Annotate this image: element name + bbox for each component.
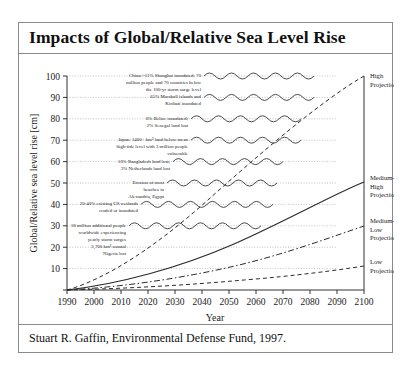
annotation-line: high-tide level with 3 million people: [116, 144, 188, 149]
projection-label-high: Projections: [370, 81, 394, 88]
y-tick-label: 20: [51, 243, 61, 253]
y-tick-label: 70: [51, 136, 61, 146]
annotation-line: 2,700 km² coastal: [91, 244, 126, 250]
y-tick-label: 80: [51, 114, 61, 124]
x-tick-label: 2030: [166, 297, 185, 307]
projection-label-medium-low: Medium-: [370, 217, 394, 224]
x-tick-label: 2070: [274, 297, 293, 307]
projection-label-low: Low: [370, 258, 382, 265]
annotation-line: 18 million additional people: [71, 223, 126, 228]
x-tick-label: 2040: [193, 297, 212, 307]
x-tick-label: 2100: [355, 297, 374, 307]
y-axis-title: Global/Relative sea level rise [cm]: [28, 114, 39, 253]
projection-label-medium-high: High: [370, 183, 384, 190]
y-tick-labels: 100 90 80 70 60 50 40 30 20 10: [46, 72, 61, 275]
x-tick-label: 2050: [220, 297, 239, 307]
y-tick-label: 90: [51, 93, 61, 103]
annotation-line: yearly storm surges: [88, 237, 126, 242]
annotation-line: 65% Marshall islands and: [150, 94, 201, 99]
annotation-line: Kiribati inundated: [165, 101, 201, 106]
x-tick-labels: 1990 2000 2010 2020 2030 2040 2050 2060 …: [58, 297, 374, 307]
annotation-line: 6% Belize inundated;: [146, 116, 188, 121]
annotation-line: China:>11% Shanghai inundated; 70: [129, 73, 202, 78]
y-tick-label: 60: [51, 157, 61, 167]
y-tick-label: 50: [51, 179, 61, 189]
annotation-line: 2% Senegal land lost: [147, 123, 189, 128]
chart-plot-area: 100 90 80 70 60 50 40 30 20 10 1990 2000…: [19, 54, 394, 327]
projection-labels: High Projections Medium- High Projection…: [370, 72, 394, 274]
annotation-line: Alexandria, Egypt: [128, 194, 164, 200]
annotation-line: worldwide experiencing: [79, 230, 127, 235]
annotation-line: million people and 70 countries below: [126, 80, 202, 85]
y-tick-label: 10: [51, 264, 61, 274]
x-tick-label: 1990: [58, 297, 77, 307]
annotation-line: the 100-yr storm surge level: [146, 87, 202, 92]
x-axis-title: Year: [206, 312, 225, 323]
impact-annotations: China:>11% Shanghai inundated; 70 millio…: [71, 73, 202, 256]
annotation-line: beaches in: [143, 187, 164, 192]
annotation-line: 10% Bangladesh land lost;: [118, 159, 170, 164]
y-tick-label: 100: [46, 72, 61, 82]
annotation-line: Nigeria lost: [103, 251, 127, 256]
x-tick-label: 2090: [328, 297, 347, 307]
sea-level-chart: 100 90 80 70 60 50 40 30 20 10 1990 2000…: [19, 54, 394, 327]
curve-medium-low-projections: [67, 226, 364, 290]
y-axis: [63, 76, 67, 290]
x-tick-label: 2000: [85, 297, 104, 307]
projection-label-medium-low: Projections: [370, 234, 394, 241]
annotation-line: 20-40% existing US wetlands: [80, 201, 138, 206]
x-axis: [67, 290, 364, 294]
curve-low-projections: [67, 266, 364, 290]
projection-label-low: Projections: [370, 267, 394, 274]
figure-title: Impacts of Global/Relative Sea Level Ris…: [29, 27, 346, 48]
figure-caption: Stuart R. Gaffin, Environmental Defense …: [29, 331, 286, 346]
annotation-line: 3% Netherlands land lost: [121, 166, 171, 171]
projection-label-medium-high: Medium-: [370, 174, 394, 181]
x-tick-label: 2010: [112, 297, 131, 307]
projection-label-medium-low: Low: [370, 226, 382, 233]
x-tick-label: 2060: [247, 297, 266, 307]
annotation-line: Erosion of most: [133, 180, 165, 185]
wave-marker-40: [167, 180, 277, 186]
annotation-line: vulnerable: [167, 151, 188, 156]
projection-label-high: High: [370, 72, 384, 79]
y-tick-label: 40: [51, 200, 61, 210]
caption-divider: [19, 324, 392, 325]
annotation-line: eroded or inundated: [99, 208, 139, 213]
x-tick-label: 2020: [139, 297, 158, 307]
annotation-line: Japan: 1400+ km² land below mean: [118, 137, 188, 142]
y-tick-label: 30: [51, 221, 61, 231]
projection-label-medium-high: Projections: [370, 191, 394, 198]
figure-panel: Impacts of Global/Relative Sea Level Ris…: [18, 22, 393, 353]
x-tick-label: 2080: [301, 297, 320, 307]
